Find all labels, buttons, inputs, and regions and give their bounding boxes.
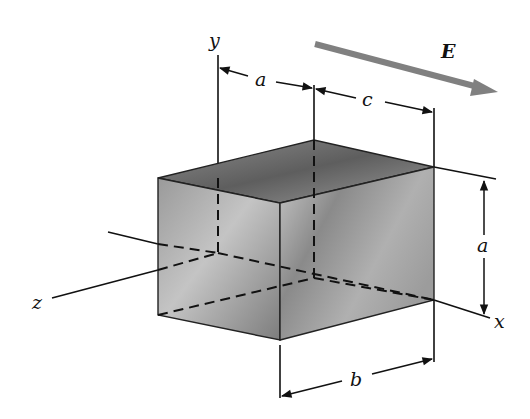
field-label: E	[440, 40, 456, 62]
electric-field-arrow	[315, 44, 498, 96]
x-axis-label: x	[494, 310, 505, 332]
dim-b-left	[282, 381, 342, 396]
dim-b-right	[372, 359, 432, 374]
dim-label-a-top: a	[255, 68, 266, 90]
dim-a-top-left	[220, 68, 248, 76]
dim-a-top-right	[276, 82, 312, 88]
dim-c-right	[385, 102, 432, 112]
field-arrowhead-icon	[470, 79, 498, 96]
box-in-field-diagram: y E a c a x z b	[0, 0, 530, 419]
ext-line-right-top	[434, 167, 496, 179]
dim-label-c: c	[362, 88, 373, 110]
z-axis-label: z	[31, 291, 43, 313]
dim-c-left	[316, 89, 356, 98]
dim-label-a-right: a	[477, 234, 488, 256]
y-axis-label: y	[208, 29, 220, 51]
z-axis-front-line	[52, 270, 158, 298]
dim-label-b: b	[350, 368, 362, 390]
rectangular-box	[158, 140, 434, 340]
x-axis-line	[434, 300, 490, 318]
z-axis-back-line	[108, 232, 158, 244]
